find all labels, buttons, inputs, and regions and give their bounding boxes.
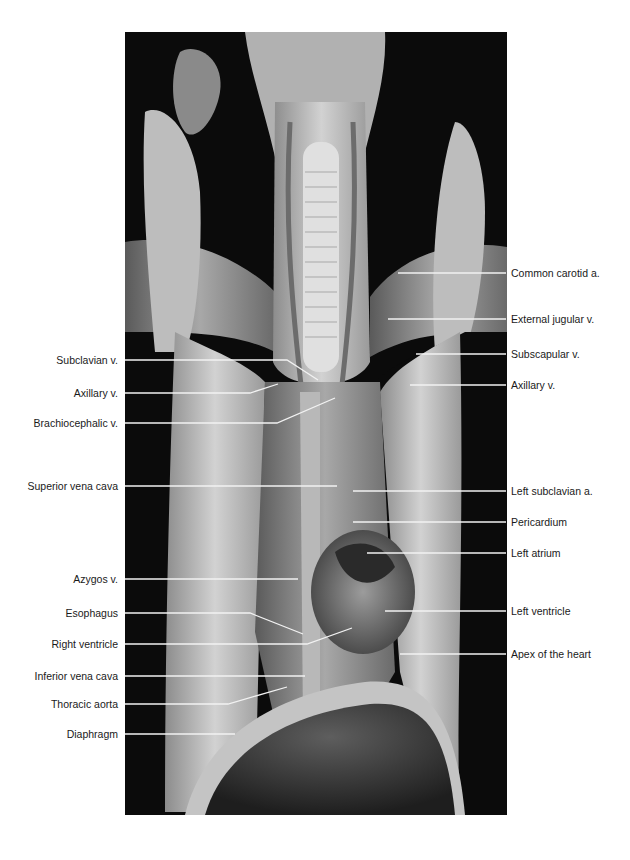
label-left-ventricle: Left ventricle: [511, 605, 571, 617]
label-right-ventricle: Right ventricle: [0, 638, 118, 650]
label-brachiocephalic-v: Brachiocephalic v.: [0, 417, 118, 429]
label-subclavian-v: Subclavian v.: [0, 354, 118, 366]
label-pericardium: Pericardium: [511, 516, 567, 528]
label-esophagus: Esophagus: [0, 607, 118, 619]
label-left-subclavian-a: Left subclavian a.: [511, 485, 593, 497]
label-diaphragm: Diaphragm: [0, 728, 118, 740]
label-axillary-v-right: Axillary v.: [511, 379, 555, 391]
label-axillary-v-left: Axillary v.: [0, 387, 118, 399]
label-azygos-v: Azygos v.: [0, 573, 118, 585]
label-left-atrium: Left atrium: [511, 547, 561, 559]
label-external-jugular-v: External jugular v.: [511, 313, 594, 325]
label-common-carotid-a: Common carotid a.: [511, 267, 600, 279]
label-inferior-vena-cava: Inferior vena cava: [0, 670, 118, 682]
label-superior-vena-cava: Superior vena cava: [0, 480, 118, 492]
label-apex-of-the-heart: Apex of the heart: [511, 648, 591, 660]
label-thoracic-aorta: Thoracic aorta: [0, 698, 118, 710]
anatomy-illustration: [125, 32, 507, 815]
dissection-photograph: [125, 32, 507, 815]
label-subscapular-v: Subscapular v.: [511, 348, 580, 360]
